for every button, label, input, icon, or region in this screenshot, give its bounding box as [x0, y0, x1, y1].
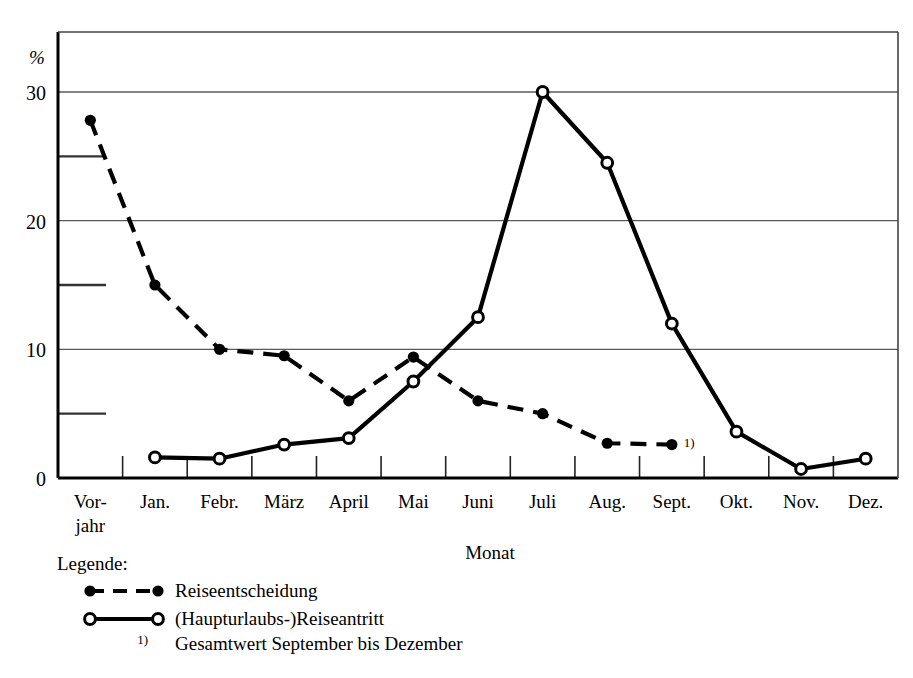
x-category-label: Aug.	[588, 491, 625, 512]
data-point-marker	[537, 87, 548, 98]
x-category-label: März	[264, 491, 304, 512]
data-point-marker	[214, 344, 225, 355]
legend-marker-filled	[84, 585, 95, 596]
x-category-label-line2: jahr	[75, 515, 106, 536]
legend-footnote-text: Gesamtwert September bis Dezember	[175, 633, 463, 654]
legend-marker-filled	[152, 585, 163, 596]
data-point-marker	[602, 438, 613, 449]
x-category-label: Jan.	[140, 491, 170, 512]
data-point-marker	[343, 433, 354, 444]
data-point-marker	[860, 453, 871, 464]
y-tick-label-10: 10	[26, 339, 46, 361]
data-point-marker	[602, 157, 613, 168]
y-tick-label-0: 0	[36, 468, 46, 490]
data-point-marker	[149, 279, 160, 290]
x-category-label: Febr.	[200, 491, 239, 512]
data-point-marker	[214, 453, 225, 464]
plot-annotations-group: 1)	[684, 435, 695, 450]
x-category-label: Dez.	[848, 491, 883, 512]
footnote-marker-in-plot: 1)	[684, 435, 695, 450]
x-category-label: April	[329, 491, 369, 512]
legend-entry-label-reiseentscheidung: Reiseentscheidung	[175, 580, 318, 601]
legend-entry-label-reiseantritt: (Haupturlaubs-)Reiseantritt	[175, 608, 385, 630]
x-category-label: Juli	[529, 491, 556, 512]
x-category-label: Vor-	[74, 491, 107, 512]
x-category-label: Okt.	[720, 491, 753, 512]
data-point-marker	[731, 426, 742, 437]
x-category-label: Nov.	[783, 491, 819, 512]
legend-marker-open	[153, 614, 164, 625]
data-point-marker	[473, 312, 484, 323]
data-point-marker	[666, 439, 677, 450]
data-point-marker	[408, 376, 419, 387]
x-category-label: Mai	[398, 491, 429, 512]
data-point-marker	[666, 318, 677, 329]
data-point-marker	[472, 395, 483, 406]
x-axis-title: Monat	[465, 542, 515, 563]
line-chart: 3020100 Vor-jahrJan.Febr.MärzAprilMaiJun…	[0, 0, 913, 678]
legend-footnote-mark: 1)	[137, 632, 148, 647]
data-point-marker	[279, 350, 290, 361]
data-point-marker	[408, 351, 419, 362]
data-point-marker	[343, 395, 354, 406]
x-category-label: Juni	[462, 491, 494, 512]
legend-marker-open	[85, 614, 96, 625]
chart-figure: 3020100 Vor-jahrJan.Febr.MärzAprilMaiJun…	[0, 0, 913, 678]
data-point-marker	[150, 452, 161, 463]
x-category-label: Sept.	[653, 491, 692, 512]
data-point-marker	[796, 464, 807, 475]
data-point-marker	[279, 439, 290, 450]
y-axis-unit-label: %	[29, 47, 45, 68]
data-point-marker	[537, 408, 548, 419]
legend-title: Legende:	[57, 553, 128, 574]
data-point-marker	[85, 115, 96, 126]
y-tick-label-20: 20	[26, 211, 46, 233]
y-tick-label-30: 30	[26, 82, 46, 104]
